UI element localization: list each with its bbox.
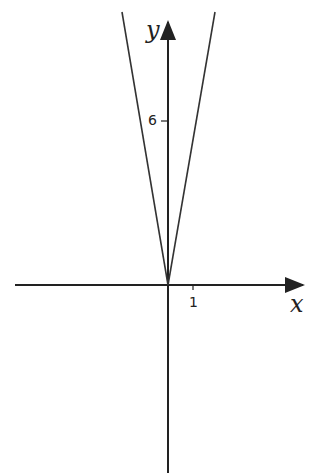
graph-canvas <box>0 0 316 473</box>
curve-left-branch <box>122 12 168 285</box>
x-tick-label-1: 1 <box>189 294 198 310</box>
x-axis-label: x <box>290 290 304 318</box>
curve-right-branch <box>168 12 215 285</box>
y-tick-label-6: 6 <box>148 112 157 128</box>
y-axis-label: y <box>146 16 160 44</box>
